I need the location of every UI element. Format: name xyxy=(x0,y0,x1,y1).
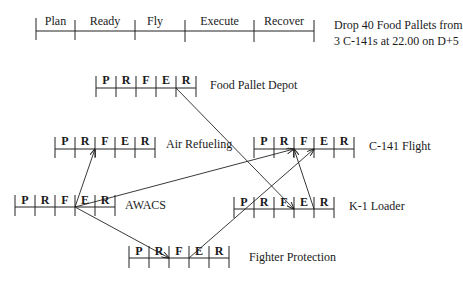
cell-ready: R xyxy=(75,134,95,148)
phase-label-recover: Recover xyxy=(254,14,314,28)
cell-plan: P xyxy=(55,134,75,148)
unit-label-air-refueling: Air Refueling xyxy=(166,137,232,151)
phase-label-plan: Plan xyxy=(36,14,75,28)
cell-fly: F xyxy=(136,73,156,87)
cell-execute: E xyxy=(75,193,95,207)
mission-line-2: 3 C-141s at 22.00 on D+5 xyxy=(334,34,459,48)
cell-ready: R xyxy=(116,73,136,87)
cell-ready: R xyxy=(35,193,55,207)
cell-recover: R xyxy=(314,195,334,209)
cell-fly: F xyxy=(55,193,75,207)
mission-line-1: Drop 40 Food Pallets from xyxy=(334,18,463,32)
unit-label-c141-flight: C-141 Flight xyxy=(369,139,431,153)
phase-label-execute: Execute xyxy=(185,14,254,28)
phase-label-fly: Fly xyxy=(135,14,175,28)
cell-execute: E xyxy=(156,73,176,87)
cell-recover: R xyxy=(135,134,155,148)
cell-fly: F xyxy=(169,244,189,258)
dependency-arrows xyxy=(75,88,314,258)
cell-recover: R xyxy=(95,193,115,207)
cell-execute: E xyxy=(314,134,334,148)
cell-plan: P xyxy=(15,193,35,207)
cell-plan: P xyxy=(254,134,274,148)
cell-recover: R xyxy=(334,134,354,148)
cell-ready: R xyxy=(254,195,274,209)
cell-ready: R xyxy=(149,244,169,258)
cell-execute: E xyxy=(115,134,135,148)
cell-ready: R xyxy=(274,134,294,148)
cell-fly: F xyxy=(294,134,314,148)
cell-plan: P xyxy=(129,244,149,258)
cell-recover: R xyxy=(209,244,229,258)
cell-fly: F xyxy=(274,195,294,209)
unit-label-k1-loader: K-1 Loader xyxy=(349,199,405,213)
cell-execute: E xyxy=(189,244,209,258)
unit-label-food-pallet-depot: Food Pallet Depot xyxy=(210,78,297,92)
cell-fly: F xyxy=(95,134,115,148)
cell-recover: R xyxy=(176,73,196,87)
unit-label-awacs: AWACS xyxy=(125,198,166,212)
phase-label-ready: Ready xyxy=(75,14,135,28)
unit-label-fighter-protection: Fighter Protection xyxy=(249,250,336,264)
cell-plan: P xyxy=(96,73,116,87)
cell-execute: E xyxy=(294,195,314,209)
cell-plan: P xyxy=(234,195,254,209)
